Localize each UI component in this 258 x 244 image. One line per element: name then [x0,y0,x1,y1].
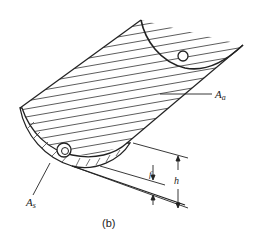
label-aperture-area: Aa [214,88,226,102]
figure-caption: (b) [102,217,115,229]
absorber-leader [33,163,50,195]
near-absorber-tube-inner [62,148,69,155]
far-absorber-tube [178,51,188,61]
near-parabola-section [20,108,130,168]
dimension-lines [72,143,188,208]
far-parabola [141,20,243,69]
trough-collector-diagram: Aa As f h (b) [0,0,258,244]
label-absorber-area: As [25,196,36,210]
label-depth: h [174,175,179,186]
